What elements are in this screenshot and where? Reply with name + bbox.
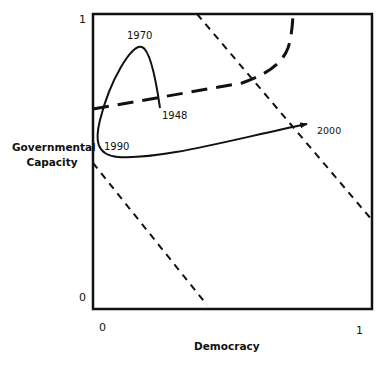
- x-axis-title: Democracy: [194, 340, 284, 352]
- x-tick-left: 0: [99, 321, 106, 334]
- y-axis-title: Governmental Capacity: [12, 140, 92, 170]
- y-tick-top: 1: [79, 13, 86, 26]
- y-tick-bottom: 0: [79, 291, 86, 304]
- year-label-1990: 1990: [104, 141, 129, 152]
- year-label-1948: 1948: [162, 110, 187, 121]
- diagonal-dashed-upper: [197, 14, 372, 220]
- year-label-1970: 1970: [127, 30, 152, 41]
- x-tick-right: 1: [356, 324, 363, 337]
- y-axis-title-line1: Governmental: [12, 140, 92, 155]
- diagonal-dashed-lower: [93, 163, 207, 305]
- y-axis-title-line2: Capacity: [12, 155, 92, 170]
- year-label-2000: 2000: [317, 125, 341, 136]
- plot-frame: [93, 14, 372, 309]
- diagram-canvas: [0, 0, 386, 369]
